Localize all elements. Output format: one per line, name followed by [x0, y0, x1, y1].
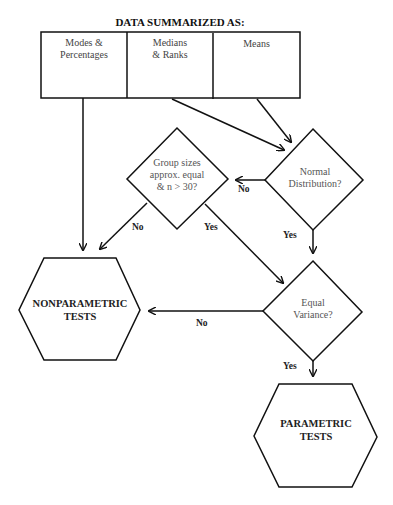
normal-line2: Distribution?: [270, 178, 360, 190]
edge-label-group-no: No: [132, 222, 144, 233]
cell-modes-line1: Modes &: [41, 37, 127, 49]
diagram-title: DATA SUMMARIZED AS:: [90, 16, 270, 29]
equal-variance-label: Equal Variance?: [268, 297, 358, 321]
edge-label-group-yes: Yes: [204, 222, 218, 233]
edge-label-normal-no: No: [238, 184, 250, 195]
group-line2: approx. equal: [132, 169, 222, 181]
edge-label-variance-no: No: [196, 318, 208, 329]
cell-means-line1: Means: [213, 38, 300, 50]
cell-modes-percentages: Modes & Percentages: [41, 37, 127, 61]
edge-label-variance-yes: Yes: [283, 361, 297, 372]
edge-label-normal-yes: Yes: [283, 230, 297, 241]
cell-medians-line1: Medians: [127, 37, 213, 49]
variance-line2: Variance?: [268, 309, 358, 321]
normal-distribution-label: Normal Distribution?: [270, 166, 360, 190]
cell-modes-line2: Percentages: [41, 49, 127, 61]
group-line3: & n > 30?: [132, 181, 222, 193]
cell-medians-ranks: Medians & Ranks: [127, 37, 213, 61]
arrow-group-yes-to-variance: [205, 204, 283, 283]
parametric-line2: TESTS: [256, 431, 376, 444]
parametric-label: PARAMETRIC TESTS: [256, 418, 376, 443]
group-line1: Group sizes: [132, 157, 222, 169]
cell-medians-line2: & Ranks: [127, 49, 213, 61]
nonparametric-line1: NONPARAMETRIC: [22, 298, 138, 311]
nonparametric-line2: TESTS: [22, 311, 138, 324]
variance-line1: Equal: [268, 297, 358, 309]
cell-means: Means: [213, 38, 300, 50]
arrow-means-to-normal: [257, 99, 291, 142]
group-sizes-label: Group sizes approx. equal & n > 30?: [132, 157, 222, 193]
parametric-line1: PARAMETRIC: [256, 418, 376, 431]
nonparametric-label: NONPARAMETRIC TESTS: [22, 298, 138, 323]
normal-line1: Normal: [270, 166, 360, 178]
